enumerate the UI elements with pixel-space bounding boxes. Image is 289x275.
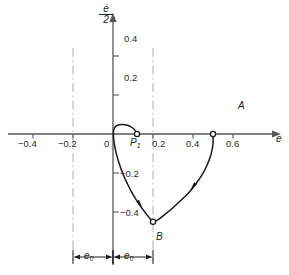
phase-plane-plot: ė 2 e −0.4 −0.2 0 0.2 0.4 0.6 0.2 0.4 −…	[0, 0, 289, 275]
point-label-a: A	[238, 100, 245, 111]
plot-canvas	[0, 0, 289, 275]
xtick-label-neg-0-4: −0.4	[18, 138, 37, 149]
xtick-label-0-6: 0.6	[226, 138, 239, 149]
xtick-label-0-4: 0.4	[186, 138, 199, 149]
ytick-label-neg-0-2: −0.2	[120, 168, 139, 179]
y-axis-label-numerator: ė	[99, 4, 113, 14]
y-axis-label-denominator: 2	[99, 15, 113, 25]
xtick-label-0-2: 0.2	[152, 138, 165, 149]
dim-right-arrow-right	[146, 254, 152, 259]
ytick-label-neg-0-4: −0.4	[120, 207, 139, 218]
point-marker-b	[150, 219, 155, 224]
point-label-p1: P1	[130, 137, 141, 149]
dimension-label-right: e0	[124, 250, 133, 262]
axes-group	[8, 13, 281, 265]
point-marker-p1	[134, 131, 139, 136]
xtick-label-0: 0	[104, 138, 109, 149]
x-axis-label: e	[276, 133, 282, 144]
point-markers-group	[134, 131, 215, 224]
xtick-label-neg-0-2: −0.2	[58, 138, 77, 149]
flow-direction-arrows-group	[136, 182, 197, 207]
point-marker-a	[210, 131, 215, 136]
point-label-b: B	[156, 231, 163, 242]
ytick-label-0-2: 0.2	[124, 72, 137, 83]
dim-left-arrow-right	[106, 254, 112, 259]
dimension-label-left: e0	[84, 250, 93, 262]
dim-left-arrow-left	[74, 254, 80, 259]
y-axis-label: ė 2	[99, 4, 113, 25]
dim-right-arrow-left	[114, 254, 120, 259]
ytick-label-0-4: 0.4	[124, 33, 137, 44]
